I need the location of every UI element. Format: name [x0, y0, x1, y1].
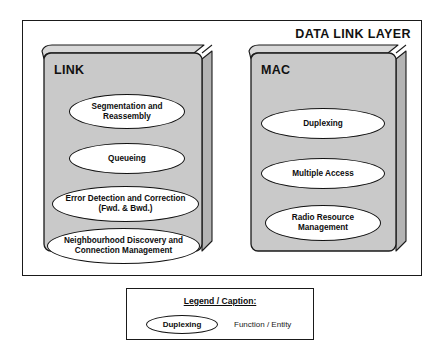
function-ellipse: Error Detection and Correction (Fwd. & B…	[52, 186, 199, 222]
legend-sample-ellipse: Duplexing	[146, 315, 218, 334]
diagram-canvas: DATA LINK LAYER LINK Segmentation and Re…	[0, 0, 439, 358]
sublayer-mac: MAC Duplexing Multiple Access Radio Reso…	[243, 45, 406, 259]
legend-title: Legend / Caption:	[127, 296, 313, 306]
function-ellipse: Segmentation and Reassembly	[69, 94, 185, 129]
legend-sample-description: Function / Entity	[234, 320, 291, 329]
function-ellipse: Multiple Access	[261, 158, 385, 189]
layer-title: DATA LINK LAYER	[295, 27, 411, 41]
function-ellipse: Radio Resource Management	[265, 205, 381, 241]
sublayer-mac-title: MAC	[261, 63, 290, 77]
function-ellipse: Queueing	[69, 143, 185, 174]
function-ellipse: Neighbourhood Discovery and Connection M…	[47, 228, 200, 264]
legend-box: Legend / Caption: Duplexing Function / E…	[126, 288, 314, 340]
sublayer-link-title: LINK	[54, 63, 84, 77]
function-ellipse: Duplexing	[261, 108, 385, 139]
sublayer-link: LINK Segmentation and Reassembly Queuein…	[36, 45, 212, 259]
